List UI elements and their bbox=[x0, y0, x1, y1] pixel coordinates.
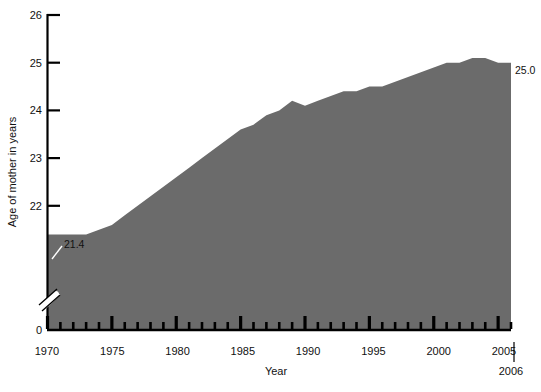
x-tick-label-1995: 1995 bbox=[361, 345, 385, 357]
x-tick-label-1980: 1980 bbox=[165, 345, 189, 357]
annotation-label-21-4: 21.4 bbox=[64, 238, 85, 250]
x-tick-label-1990: 1990 bbox=[296, 345, 320, 357]
area-chart: 26 25 24 23 22 0 1970 1975 1980 1985 199… bbox=[0, 0, 541, 392]
y-tick-label-23: 23 bbox=[30, 152, 42, 164]
x-tick-label-2005: 2005 bbox=[492, 345, 516, 357]
y-tick-label-26: 26 bbox=[30, 9, 42, 21]
y-tick-label-24: 24 bbox=[30, 104, 42, 116]
x-tick-label-1970: 1970 bbox=[35, 345, 59, 357]
x-axis-title: Year bbox=[265, 365, 288, 377]
y-tick-label-22: 22 bbox=[30, 200, 42, 212]
annotation-label-25-0: 25.0 bbox=[515, 64, 536, 76]
y-tick-label-25: 25 bbox=[30, 57, 42, 69]
y-tick-label-0: 0 bbox=[36, 324, 42, 336]
x-tick-label-1985: 1985 bbox=[231, 345, 255, 357]
chart-page: 26 25 24 23 22 0 1970 1975 1980 1985 199… bbox=[0, 0, 541, 392]
x-tick-label-2006: 2006 bbox=[499, 365, 523, 377]
y-axis-title: Age of mother in years bbox=[6, 116, 18, 227]
x-tick-label-2000: 2000 bbox=[426, 345, 450, 357]
x-tick-label-1975: 1975 bbox=[100, 345, 124, 357]
